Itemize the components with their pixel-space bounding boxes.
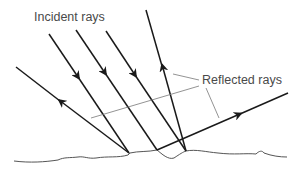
reflected-ray-right-tail — [240, 93, 288, 114]
incident-ray-1-tail — [78, 77, 129, 153]
leader-line-right — [206, 88, 219, 118]
reflected-ray-right — [157, 114, 241, 151]
reflected-ray-up — [162, 65, 186, 152]
leader-line-up — [173, 74, 199, 80]
reflected-ray-left-tail — [16, 67, 60, 101]
reflection-diagram: Incident rays Reflected rays — [0, 0, 303, 173]
incident-ray-2 — [76, 30, 106, 75]
rough-surface — [14, 150, 287, 162]
incident-rays — [49, 30, 186, 153]
incident-ray-3-tail — [135, 75, 186, 151]
incident-rays-label: Incident rays — [34, 11, 105, 24]
reflected-rays-label: Reflected rays — [202, 74, 282, 87]
reflected-ray-left — [59, 100, 129, 153]
incident-ray-1 — [49, 34, 79, 79]
reflected-ray-up-tail — [146, 10, 162, 66]
incident-ray-3 — [106, 31, 136, 77]
